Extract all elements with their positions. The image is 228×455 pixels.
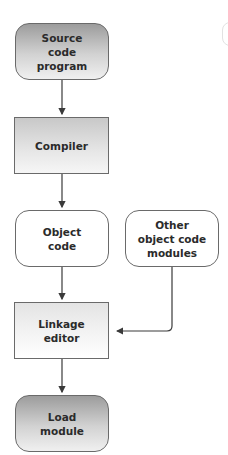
node-label: Source code program: [37, 31, 88, 73]
node-load-module: Load module: [15, 395, 109, 452]
node-linkage-editor: Linkage editor: [14, 302, 109, 359]
node-label: Other object code modules: [138, 218, 206, 260]
node-label: Object code: [43, 225, 81, 253]
node-other-object-code-modules: Other object code modules: [125, 210, 219, 267]
node-object-code: Object code: [15, 210, 109, 267]
node-compiler: Compiler: [14, 117, 109, 174]
node-label: Load module: [40, 410, 84, 438]
page-edge-decoration: [222, 22, 228, 46]
node-source-code-program: Source code program: [15, 23, 109, 80]
node-label: Linkage editor: [38, 317, 84, 345]
node-label: Compiler: [35, 139, 88, 153]
arrow-other-to-linkage: [117, 267, 172, 331]
